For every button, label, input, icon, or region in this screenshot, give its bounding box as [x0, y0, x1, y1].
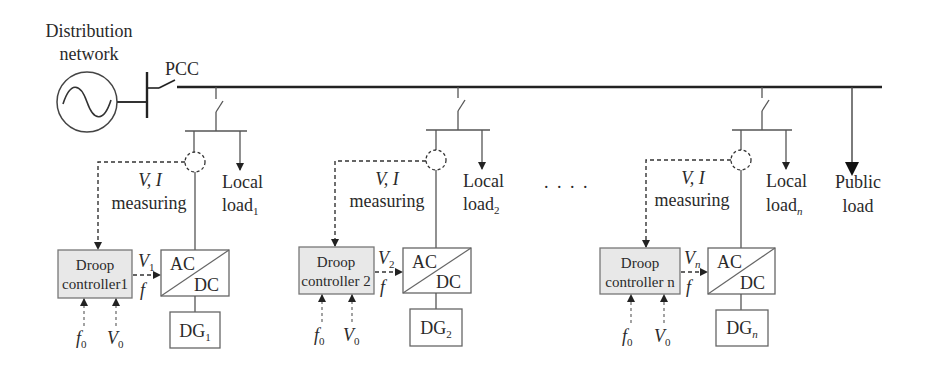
ac-source-icon: [57, 72, 117, 132]
droop-label-na: Droop: [621, 255, 659, 271]
local-load-label-n: Local: [766, 171, 807, 191]
v0-label-1: V0: [107, 328, 124, 350]
pcc-label: PCC: [165, 59, 199, 79]
local-load-label-2: Local: [463, 171, 504, 191]
droop-label-2a: Droop: [317, 254, 355, 270]
v-out-2: V2: [378, 248, 395, 270]
public-load-label-1: Public: [835, 172, 881, 192]
branch-switch-2[interactable]: [458, 87, 465, 130]
local-load-name-n: loadn: [766, 195, 803, 217]
droop-label-2b: controller 2: [301, 273, 371, 289]
pcc-switch[interactable]: PCC: [147, 59, 199, 118]
droop-label-nb: controller n: [605, 274, 675, 290]
dg-unit-2: V, I measuring Local load2 Droop control…: [299, 87, 504, 347]
microgrid-diagram: Distribution network PCC V, I measuring …: [0, 0, 927, 370]
conv-ac-2: AC: [412, 252, 437, 272]
measurement-point-1: [185, 152, 205, 172]
ac-dc-converter-1[interactable]: AC DC: [161, 250, 229, 296]
ac-dc-converter-2[interactable]: AC DC: [403, 248, 471, 293]
ellipsis: . . . .: [544, 172, 590, 192]
measure-label-2: measuring: [350, 191, 425, 211]
measurement-point-n: [731, 150, 751, 170]
conv-ac-n: AC: [717, 252, 742, 272]
source-label-line1: Distribution: [45, 21, 132, 41]
f0-label-2: f0: [314, 325, 325, 347]
local-load-name-1: load1: [222, 195, 259, 217]
v-out-n: Vn: [684, 248, 701, 270]
local-load-label-1: Local: [222, 172, 263, 192]
measure-vars-n: V, I: [681, 168, 706, 188]
measurement-point-2: [426, 150, 446, 170]
f-out-1: f: [140, 280, 148, 300]
droop-label-1b: controller1: [62, 276, 128, 292]
f0-label-1: f0: [76, 328, 87, 350]
distribution-network: Distribution network: [45, 21, 147, 132]
conv-dc-n: DC: [740, 273, 765, 293]
branch-switch-n[interactable]: [762, 87, 769, 130]
droop-label-1a: Droop: [76, 257, 114, 273]
dg-unit-n: V, I measuring Local loadn Droop control…: [600, 87, 807, 348]
local-load-name-2: load2: [463, 194, 500, 216]
f-out-n: f: [686, 277, 694, 297]
public-load: Public load: [835, 87, 881, 216]
ac-dc-converter-n[interactable]: AC DC: [708, 248, 775, 294]
measure-label-n: measuring: [655, 190, 730, 210]
branch-switch-1[interactable]: [216, 87, 223, 131]
measure-vars-2: V, I: [375, 169, 400, 189]
v-out-1: V1: [138, 251, 155, 273]
f-out-2: f: [380, 277, 388, 297]
source-label-line2: network: [60, 44, 119, 64]
measure-vars-1: V, I: [138, 170, 163, 190]
conv-dc-1: DC: [194, 275, 219, 295]
f0-label-n: f0: [622, 326, 633, 348]
conv-ac-1: AC: [170, 254, 195, 274]
public-load-label-2: load: [843, 196, 874, 216]
v0-label-n: V0: [654, 326, 671, 348]
measure-label-1: measuring: [112, 193, 187, 213]
conv-dc-2: DC: [436, 272, 461, 292]
v0-label-2: V0: [343, 325, 360, 347]
